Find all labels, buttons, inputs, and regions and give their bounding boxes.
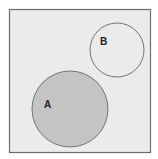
set-a-label: A bbox=[44, 99, 51, 110]
set-b-circle bbox=[90, 23, 144, 77]
set-b-label: B bbox=[100, 36, 107, 47]
venn-diagram: A B bbox=[0, 0, 158, 159]
